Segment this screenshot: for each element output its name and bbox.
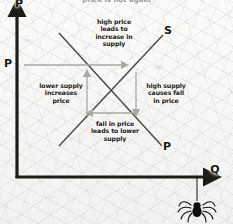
annotation-fall-in-price: fall in price leads to lower supply	[79, 120, 151, 142]
annotation-high-supply: high supply causes fall in price	[137, 82, 195, 104]
annotation-lower-supply: lower supply increases price	[31, 82, 91, 104]
supply-curve-label: S	[162, 25, 174, 38]
annotation-high-price: high price leads to increase in supply	[84, 18, 144, 47]
diagram-canvas: price is not again	[0, 0, 233, 224]
y-axis-label: P	[13, 0, 25, 11]
spider-icon	[178, 177, 216, 222]
price-curve-label: P	[161, 141, 173, 154]
price-level-label: P	[2, 58, 14, 71]
x-axis-label: Q	[209, 164, 221, 177]
